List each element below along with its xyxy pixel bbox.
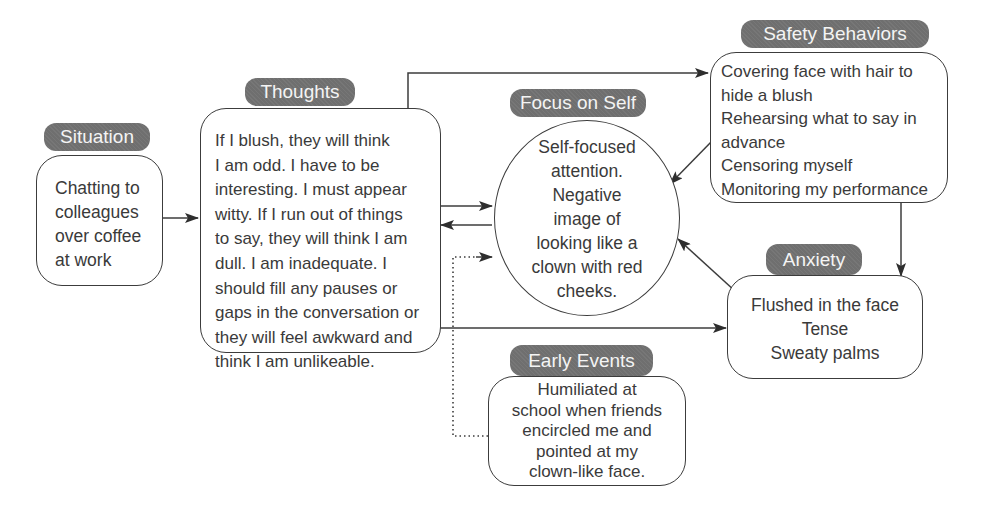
focus-on-self-circle: Self-focused attention. Negative image o… <box>494 120 680 316</box>
anxiety-text-line: Sweaty palms <box>728 341 922 365</box>
safety-text-line: Covering face with hair to <box>721 60 947 84</box>
focus-text-line: Self-focused <box>532 135 643 159</box>
safety-behaviors-label: Safety Behaviors <box>741 20 929 48</box>
situation-text-line: colleagues <box>55 200 162 224</box>
focus-on-self-text: Self-focused attention. Negative image o… <box>532 133 643 303</box>
safety-text-line: Censoring myself <box>721 154 947 178</box>
focus-text-line: looking like a <box>532 231 643 255</box>
edge-anxiety-to-focus <box>678 239 735 291</box>
situation-text-line: over coffee <box>55 224 162 248</box>
situation-text-line: Chatting to <box>55 176 162 200</box>
situation-box: Chatting to colleagues over coffee at wo… <box>36 155 163 286</box>
anxiety-box: Flushed in the face Tense Sweaty palms <box>727 275 923 379</box>
edge-early-events-to-focus <box>453 257 488 436</box>
early-events-text-line: clown-like face. <box>489 462 685 483</box>
focus-text-line: attention. <box>532 159 643 183</box>
safety-text-line: hide a blush <box>721 84 947 108</box>
safety-text-line: Rehearsing what to say in <box>721 107 947 131</box>
early-events-text-line: school when friends <box>489 401 685 422</box>
thoughts-text-line: If I blush, they will think <box>215 129 440 154</box>
thoughts-text-line: gaps in the conversation or <box>215 301 440 326</box>
focus-text-line: cheeks. <box>532 279 643 303</box>
thoughts-text-line: witty. If I run out of things <box>215 203 440 228</box>
thoughts-text-line: dull. I am inadequate. I <box>215 252 440 277</box>
edge-safety-to-focus <box>670 140 713 184</box>
situation-text-line: at work <box>55 248 162 272</box>
early-events-box: Humiliated at school when friends encirc… <box>488 376 686 486</box>
safety-behaviors-box: Covering face with hair to hide a blush … <box>710 52 948 203</box>
thoughts-box: If I blush, they will think I am odd. I … <box>200 108 441 353</box>
early-events-text-line: encircled me and <box>489 421 685 442</box>
early-events-text-line: Humiliated at <box>489 380 685 401</box>
thoughts-text-line: they will feel awkward and <box>215 326 440 351</box>
thoughts-text-line: think I am unlikeable. <box>215 350 440 375</box>
safety-text-line: advance <box>721 131 947 155</box>
anxiety-text-line: Tense <box>728 317 922 341</box>
focus-text-line: clown with red <box>532 255 643 279</box>
situation-label: Situation <box>44 123 150 151</box>
focus-on-self-label: Focus on Self <box>510 89 646 117</box>
thoughts-text-line: interesting. I must appear <box>215 178 440 203</box>
focus-text-line: image of <box>532 207 643 231</box>
thoughts-text-line: I am odd. I have to be <box>215 154 440 179</box>
focus-text-line: Negative <box>532 183 643 207</box>
safety-text-line: Monitoring my performance <box>721 178 947 202</box>
anxiety-text-line: Flushed in the face <box>728 293 922 317</box>
thoughts-text-line: should fill any pauses or <box>215 277 440 302</box>
thoughts-label: Thoughts <box>245 78 355 106</box>
thoughts-text-line: to say, they will think I am <box>215 227 440 252</box>
early-events-text-line: pointed at my <box>489 442 685 463</box>
anxiety-label: Anxiety <box>766 244 862 275</box>
early-events-label: Early Events <box>510 345 653 376</box>
